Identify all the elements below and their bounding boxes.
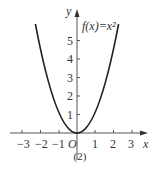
x-tick-label: −1 [52, 137, 65, 151]
y-axis-arrow-icon [75, 9, 80, 17]
origin-label: O [68, 137, 77, 151]
function-label: f(x)=x² [82, 19, 116, 33]
y-tick-label: 1 [67, 108, 73, 122]
x-tick-label: −2 [35, 137, 48, 151]
x-tick-label: −3 [17, 137, 30, 151]
y-tick-label: 5 [67, 34, 73, 48]
x-axis-arrow-icon [140, 131, 148, 136]
x-tick-label: 2 [110, 137, 116, 151]
y-tick-label: 2 [67, 89, 73, 103]
y-tick-label: 4 [67, 52, 73, 66]
y-tick-label: 3 [67, 71, 73, 85]
figure-caption: (2) [0, 150, 160, 162]
x-tick-label: 3 [128, 137, 134, 151]
x-axis-label: x [142, 137, 149, 151]
x-tick-label: 1 [92, 137, 98, 151]
y-axis-label: y [65, 4, 72, 18]
